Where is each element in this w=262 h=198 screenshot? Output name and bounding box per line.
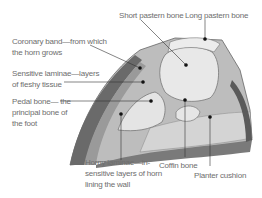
label-planter-cushion: Planter cushion xyxy=(194,170,246,181)
short-pastern-bone xyxy=(160,47,219,101)
label-long-pastern-bone: Long pastern bone xyxy=(185,10,248,21)
label-sensitive-laminae: Sensitive laminae—layers of fleshy tissu… xyxy=(12,68,99,90)
label-short-pastern-bone: Short pastern bone xyxy=(119,10,183,21)
label-coronary-band: Coronary band—from which the horn grows xyxy=(12,36,107,58)
label-coffin-bone: Coffin bone xyxy=(159,160,198,171)
label-pedal-bone: Pedal bone— the principal bone of the fo… xyxy=(12,96,71,129)
label-horny-laminae: Horny laminae—in- sensitive layers of ho… xyxy=(85,157,162,190)
